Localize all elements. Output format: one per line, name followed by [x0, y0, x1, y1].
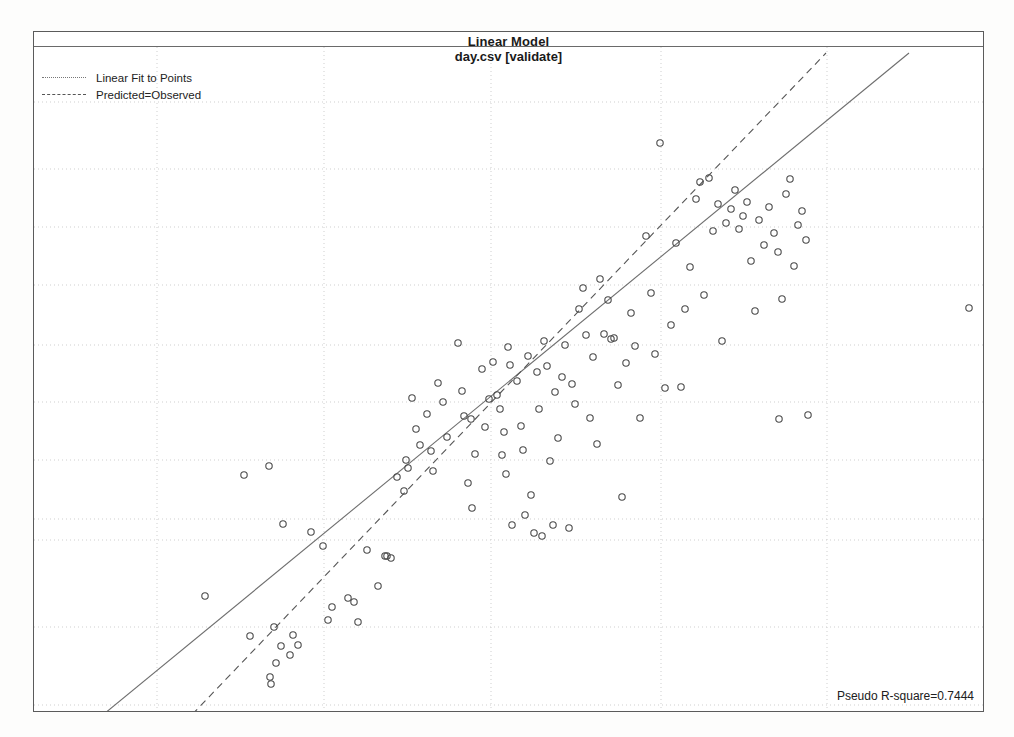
data-point[interactable]	[494, 392, 500, 398]
data-point[interactable]	[268, 681, 274, 687]
data-point[interactable]	[417, 442, 423, 448]
data-point[interactable]	[776, 416, 782, 422]
data-point[interactable]	[572, 401, 578, 407]
data-point[interactable]	[459, 388, 465, 394]
data-point[interactable]	[430, 468, 436, 474]
data-point[interactable]	[364, 547, 370, 553]
data-point[interactable]	[693, 196, 699, 202]
data-point[interactable]	[465, 480, 471, 486]
data-point[interactable]	[728, 206, 734, 212]
data-point[interactable]	[501, 429, 507, 435]
data-point[interactable]	[375, 583, 381, 589]
data-point[interactable]	[615, 382, 621, 388]
data-point[interactable]	[444, 434, 450, 440]
data-point[interactable]	[587, 415, 593, 421]
data-point[interactable]	[783, 191, 789, 197]
data-point[interactable]	[805, 412, 811, 418]
data-point[interactable]	[597, 276, 603, 282]
data-point[interactable]	[544, 363, 550, 369]
data-point[interactable]	[507, 362, 513, 368]
data-point[interactable]	[308, 529, 314, 535]
data-point[interactable]	[569, 381, 575, 387]
data-point[interactable]	[320, 543, 326, 549]
plot-area[interactable]: Linear Fit to Points Predicted=Observed …	[34, 47, 983, 711]
data-point[interactable]	[662, 385, 668, 391]
data-point[interactable]	[761, 242, 767, 248]
data-point[interactable]	[552, 389, 558, 395]
data-point[interactable]	[351, 599, 357, 605]
data-point[interactable]	[522, 512, 528, 518]
data-point[interactable]	[280, 521, 286, 527]
data-point[interactable]	[541, 338, 547, 344]
data-point[interactable]	[623, 360, 629, 366]
legend-item-predicted-observed[interactable]: Predicted=Observed	[42, 86, 201, 103]
data-point[interactable]	[267, 674, 273, 680]
data-point[interactable]	[594, 441, 600, 447]
data-point[interactable]	[547, 458, 553, 464]
data-point[interactable]	[499, 452, 505, 458]
data-point[interactable]	[583, 332, 589, 338]
data-point[interactable]	[394, 474, 400, 480]
data-point[interactable]	[295, 642, 301, 648]
data-point[interactable]	[514, 378, 520, 384]
data-point[interactable]	[701, 292, 707, 298]
data-point[interactable]	[505, 344, 511, 350]
data-point[interactable]	[355, 619, 361, 625]
data-point[interactable]	[329, 604, 335, 610]
data-point[interactable]	[518, 423, 524, 429]
data-point[interactable]	[550, 522, 556, 528]
data-point[interactable]	[643, 233, 649, 239]
data-point[interactable]	[719, 338, 725, 344]
data-point[interactable]	[503, 471, 509, 477]
data-point[interactable]	[409, 395, 415, 401]
data-point[interactable]	[559, 374, 565, 380]
legend-item-linear-fit[interactable]: Linear Fit to Points	[42, 69, 201, 86]
data-point[interactable]	[687, 264, 693, 270]
data-point[interactable]	[748, 258, 754, 264]
data-point[interactable]	[657, 140, 663, 146]
data-point[interactable]	[528, 492, 534, 498]
data-point[interactable]	[531, 530, 537, 536]
data-point[interactable]	[637, 415, 643, 421]
data-point[interactable]	[771, 230, 777, 236]
data-point[interactable]	[803, 237, 809, 243]
data-point[interactable]	[619, 494, 625, 500]
data-point[interactable]	[241, 472, 247, 478]
data-point[interactable]	[468, 416, 474, 422]
data-point[interactable]	[424, 411, 430, 417]
data-point[interactable]	[632, 343, 638, 349]
data-point[interactable]	[715, 201, 721, 207]
data-point[interactable]	[345, 595, 351, 601]
data-point[interactable]	[566, 525, 572, 531]
data-point[interactable]	[723, 220, 729, 226]
data-point[interactable]	[668, 322, 674, 328]
data-point[interactable]	[435, 380, 441, 386]
data-point[interactable]	[266, 463, 272, 469]
data-point[interactable]	[278, 643, 284, 649]
data-point[interactable]	[440, 399, 446, 405]
data-point[interactable]	[601, 331, 607, 337]
data-point[interactable]	[590, 354, 596, 360]
data-point[interactable]	[791, 263, 797, 269]
data-point[interactable]	[202, 593, 208, 599]
data-point[interactable]	[628, 310, 634, 316]
data-point[interactable]	[539, 533, 545, 539]
data-point[interactable]	[287, 652, 293, 658]
data-point[interactable]	[536, 406, 542, 412]
data-point[interactable]	[247, 633, 253, 639]
data-point[interactable]	[678, 384, 684, 390]
data-point[interactable]	[479, 366, 485, 372]
data-point[interactable]	[744, 199, 750, 205]
data-point[interactable]	[290, 632, 296, 638]
data-point[interactable]	[555, 435, 561, 441]
data-point[interactable]	[490, 359, 496, 365]
data-point[interactable]	[520, 447, 526, 453]
data-point[interactable]	[740, 213, 746, 219]
data-point[interactable]	[736, 226, 742, 232]
data-point[interactable]	[325, 617, 331, 623]
data-point[interactable]	[405, 465, 411, 471]
data-point[interactable]	[482, 424, 488, 430]
data-point[interactable]	[752, 308, 758, 314]
data-point[interactable]	[273, 660, 279, 666]
data-point[interactable]	[534, 369, 540, 375]
